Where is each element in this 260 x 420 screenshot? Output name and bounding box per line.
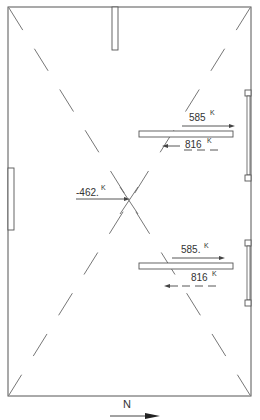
load-unit-462: K: [101, 184, 106, 191]
right-connector-bottom-2: [245, 300, 251, 306]
north-label: N: [123, 399, 131, 410]
right-connector-top-1: [245, 90, 251, 96]
load-label-462: -462.: [76, 188, 99, 198]
load-unit-585-lower: K: [204, 242, 209, 249]
right-wall-segment-lower: [247, 246, 250, 300]
right-connector-bottom-1: [245, 240, 251, 246]
load-unit-816-upper: K: [207, 137, 212, 144]
load-unit-585-upper: K: [210, 109, 215, 116]
floor-plan-drawing: [0, 0, 260, 420]
top-wall-segment: [112, 7, 118, 50]
arrow-585-lower-icon: [219, 256, 225, 260]
arrow-816-lower-icon: [164, 284, 170, 288]
arrow-585-upper-icon: [229, 124, 235, 128]
load-label-816-upper: 816: [185, 140, 202, 150]
load-label-585-lower: 585.: [181, 245, 200, 255]
left-wall-segment: [8, 168, 14, 230]
load-unit-816-lower: K: [212, 270, 217, 277]
upper-beam: [139, 131, 233, 137]
load-label-816-lower: 816: [191, 273, 208, 283]
north-arrow-icon: [145, 413, 160, 419]
right-wall-segment-upper: [247, 96, 250, 175]
lower-beam: [139, 263, 233, 269]
right-connector-top-2: [245, 175, 251, 181]
load-label-585-upper: 585: [189, 113, 206, 123]
